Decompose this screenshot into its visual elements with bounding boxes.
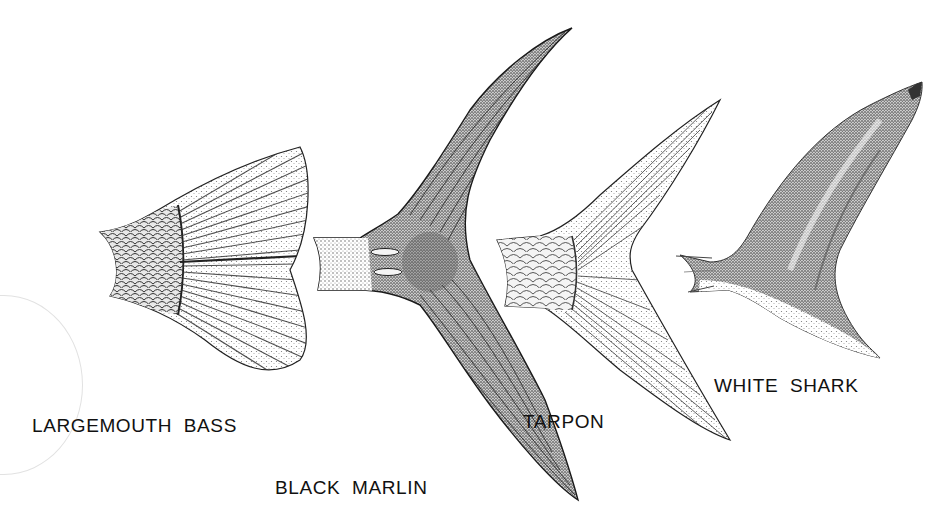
label-tarpon: TARPON [523, 412, 604, 431]
white-shark-fin [676, 82, 922, 380]
label-largemouth-bass: LARGEMOUTH BASS [32, 416, 237, 435]
label-black-marlin: BLACK MARLIN [275, 478, 427, 497]
label-white-shark: WHITE SHARK [714, 376, 858, 395]
fins-drawing [0, 0, 947, 532]
largemouth-bass-fin [100, 140, 311, 378]
